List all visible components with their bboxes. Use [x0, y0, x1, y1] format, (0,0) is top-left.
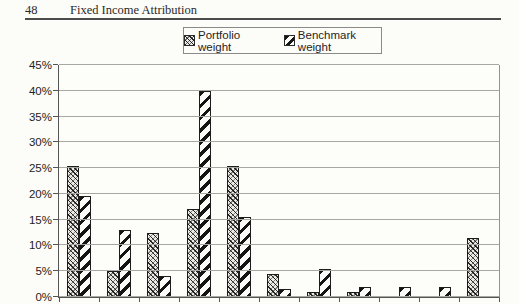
running-title: Fixed Income Attribution: [70, 3, 197, 18]
gridline: [59, 167, 499, 168]
category-group: [379, 65, 419, 297]
category-group: [459, 65, 499, 297]
category-group: [219, 65, 259, 297]
y-axis-tick: [53, 90, 58, 91]
portfolio-bar: [467, 238, 479, 297]
x-axis-tick: [219, 298, 220, 302]
x-axis-tick: [299, 298, 300, 302]
benchmark-bar: [79, 196, 91, 297]
gridline: [59, 193, 499, 194]
y-axis-label: 0%: [0, 291, 52, 304]
legend-item-benchmark: Benchmark weight: [284, 29, 381, 53]
y-axis-tick: [53, 296, 58, 297]
x-axis-tick: [339, 298, 340, 302]
category-group: [299, 65, 339, 297]
portfolio-bar: [227, 166, 239, 297]
plot-area: [58, 65, 500, 298]
legend-label-portfolio: Portfolio weight: [198, 29, 267, 53]
y-axis-label: 40%: [0, 84, 52, 97]
header-rule: [25, 18, 501, 20]
benchmark-bar: [199, 91, 211, 297]
gridline: [59, 90, 499, 91]
category-group: [139, 65, 179, 297]
portfolio-bar: [147, 233, 159, 297]
running-header: 48 Fixed Income Attribution: [25, 3, 500, 17]
page-number: 48: [25, 3, 38, 18]
portfolio-swatch-icon: [184, 35, 195, 46]
portfolio-bar: [267, 274, 279, 297]
y-axis-tick: [53, 193, 58, 194]
legend-item-portfolio: Portfolio weight: [184, 29, 267, 53]
benchmark-bar: [319, 269, 331, 297]
y-axis-tick: [53, 270, 58, 271]
y-axis-tick: [53, 116, 58, 117]
category-group: [99, 65, 139, 297]
y-axis-tick: [53, 244, 58, 245]
x-axis-tick: [179, 298, 180, 302]
chart-legend: Portfolio weight Benchmark weight: [183, 27, 382, 54]
x-axis-tick: [419, 298, 420, 302]
gridline: [59, 116, 499, 117]
x-axis-tick: [459, 298, 460, 302]
y-axis-tick: [53, 64, 58, 65]
legend-label-benchmark: Benchmark weight: [298, 29, 381, 53]
y-axis-tick: [53, 167, 58, 168]
y-axis-label: 5%: [0, 265, 52, 278]
gridline: [59, 64, 499, 65]
y-axis-label: 20%: [0, 187, 52, 200]
y-axis-tick: [53, 141, 58, 142]
category-group: [339, 65, 379, 297]
y-axis-tick: [53, 219, 58, 220]
x-axis-tick: [259, 298, 260, 302]
gridline: [59, 244, 499, 245]
x-axis-tick: [379, 298, 380, 302]
portfolio-bar: [187, 209, 199, 297]
portfolio-bar: [67, 166, 79, 297]
y-axis: 0%5%10%15%20%25%30%35%40%45%: [0, 65, 52, 297]
y-axis-label: 45%: [0, 59, 52, 72]
gridline: [59, 270, 499, 271]
benchmark-bar: [159, 276, 171, 297]
bar-groups: [59, 65, 499, 297]
portfolio-bar: [107, 271, 119, 297]
gridline: [59, 296, 499, 297]
benchmark-bar: [119, 230, 131, 297]
y-axis-label: 35%: [0, 110, 52, 123]
y-axis-label: 25%: [0, 162, 52, 175]
category-group: [259, 65, 299, 297]
x-axis-tick: [139, 298, 140, 302]
y-axis-label: 10%: [0, 239, 52, 252]
gridline: [59, 219, 499, 220]
category-group: [179, 65, 219, 297]
x-axis-tick: [499, 298, 500, 302]
category-group: [419, 65, 459, 297]
x-axis-tick: [99, 298, 100, 302]
x-axis-tick: [59, 298, 60, 302]
y-axis-label: 30%: [0, 136, 52, 149]
gridline: [59, 141, 499, 142]
category-group: [59, 65, 99, 297]
benchmark-swatch-icon: [284, 35, 295, 46]
benchmark-bar: [239, 217, 251, 297]
y-axis-label: 15%: [0, 213, 52, 226]
